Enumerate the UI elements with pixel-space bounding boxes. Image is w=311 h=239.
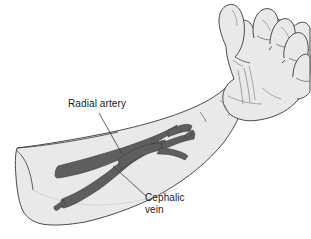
anatomy-figure: Radial artery Cephalic vein bbox=[0, 0, 311, 239]
label-radial-artery: Radial artery bbox=[68, 98, 126, 110]
label-cephalic-vein-line1: Cephalic bbox=[145, 192, 185, 204]
label-cephalic-vein: Cephalic vein bbox=[145, 192, 185, 215]
label-cephalic-vein-line2: vein bbox=[145, 204, 185, 216]
